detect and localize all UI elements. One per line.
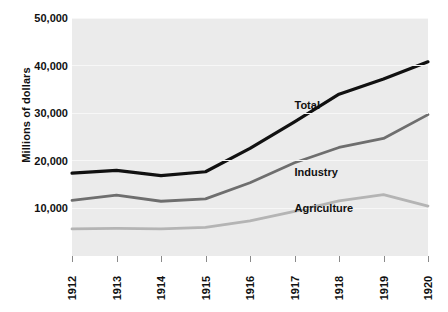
y-axis-tick-label: 40,000: [16, 60, 68, 72]
series-label-industry: Industry: [295, 166, 338, 178]
y-axis-tick-label: 10,000: [16, 202, 68, 214]
x-axis-tick-label: 1920: [422, 265, 434, 311]
series-lines: [72, 18, 428, 256]
plot-area: [72, 18, 428, 256]
series-line-total: [72, 62, 428, 176]
x-axis-tick-label: 1914: [155, 265, 167, 311]
y-axis-tick-label: 30,000: [16, 107, 68, 119]
x-axis-tick-mark: [384, 256, 385, 262]
x-axis-tick-mark: [161, 256, 162, 262]
series-label-agriculture: Agriculture: [295, 202, 354, 214]
series-line-agriculture: [72, 195, 428, 229]
gridline: [72, 208, 428, 209]
x-axis-tick-label: 1917: [289, 265, 301, 311]
x-axis-tick-label: 1916: [244, 265, 256, 311]
x-axis-tick-mark: [428, 256, 429, 262]
gridline: [72, 65, 428, 66]
x-axis-tick-label: 1913: [111, 265, 123, 311]
x-axis-tick-mark: [117, 256, 118, 262]
x-axis-ticks: [72, 256, 428, 264]
gridline: [72, 18, 428, 19]
x-axis-tick-labels: 191219131914191519161917191819191920: [72, 264, 428, 310]
x-axis-tick-label: 1912: [66, 265, 78, 311]
x-axis-tick-mark: [206, 256, 207, 262]
series-label-total: Total: [295, 99, 320, 111]
y-axis-tick-labels: 10,00020,00030,00040,00050,000: [12, 0, 68, 312]
gridline: [72, 160, 428, 161]
x-axis-tick-label: 1919: [378, 265, 390, 311]
x-axis-tick-mark: [295, 256, 296, 262]
line-chart: Millions of dollars 10,00020,00030,00040…: [0, 0, 448, 312]
series-line-industry: [72, 115, 428, 202]
x-axis-tick-label: 1918: [333, 265, 345, 311]
gridline: [72, 113, 428, 114]
x-axis-tick-label: 1915: [200, 265, 212, 311]
x-axis-tick-mark: [250, 256, 251, 262]
y-axis-tick-label: 20,000: [16, 155, 68, 167]
y-axis-tick-label: 50,000: [16, 12, 68, 24]
x-axis-tick-mark: [339, 256, 340, 262]
x-axis-tick-mark: [72, 256, 73, 262]
